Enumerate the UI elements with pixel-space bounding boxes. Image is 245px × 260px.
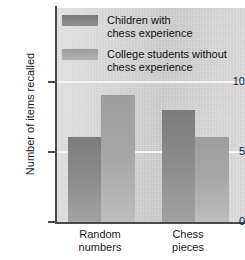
legend-swatch-college [62, 49, 98, 60]
legend-item-college: College students without chess experienc… [62, 48, 227, 73]
x-category-chess-pieces-line1: Chess [158, 228, 218, 241]
legend-label-college: College students without chess experienc… [107, 48, 227, 73]
legend-label-children-line1: Children with [107, 14, 193, 27]
legend-swatch-children [62, 15, 98, 26]
y-tick-mark-0 [48, 221, 56, 223]
y-tick-label-5: 5 [201, 146, 245, 157]
bar-children-random-numbers [68, 137, 101, 222]
y-axis-line [55, 6, 57, 224]
x-category-chess-pieces-line2: pieces [158, 241, 218, 254]
x-category-label-chess-pieces: Chess pieces [158, 228, 218, 254]
legend-label-college-line1: College students without [107, 48, 227, 61]
legend: Children with chess experience College s… [62, 14, 227, 82]
x-category-label-random-numbers: Random numbers [64, 228, 136, 254]
y-tick-label-10: 10 [201, 76, 245, 87]
y-axis-title: Number of items recalled [24, 24, 36, 204]
legend-label-college-line2: chess experience [107, 61, 227, 74]
bar-chart-figure: Children with chess experience College s… [0, 0, 245, 260]
x-category-random-numbers-line1: Random [64, 228, 136, 241]
bar-college-random-numbers [101, 95, 135, 222]
x-category-random-numbers-line2: numbers [64, 241, 136, 254]
legend-item-children: Children with chess experience [62, 14, 227, 39]
y-tick-mark-5 [48, 151, 56, 153]
plot-area: Children with chess experience College s… [56, 8, 245, 222]
y-tick-mark-10 [48, 81, 56, 83]
y-tick-label-0: 0 [201, 216, 245, 227]
bar-children-chess-pieces [162, 110, 195, 222]
legend-label-children: Children with chess experience [107, 14, 193, 39]
legend-label-children-line2: chess experience [107, 27, 193, 40]
